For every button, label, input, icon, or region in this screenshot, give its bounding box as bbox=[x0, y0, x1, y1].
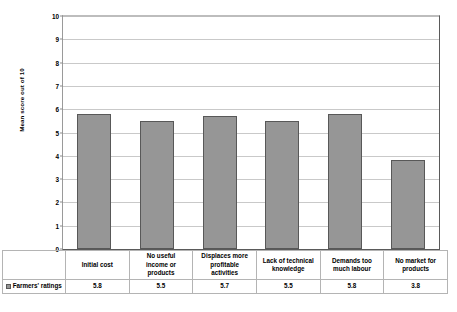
bar-chart-figure: Mean score out of 10 109876543210 Initia… bbox=[0, 0, 457, 312]
bar-slot bbox=[188, 16, 251, 249]
table-row-categories: Initial costNo usefulincome orproductsDi… bbox=[3, 251, 448, 280]
category-label-line: Lack of technical bbox=[257, 257, 320, 265]
bar-slot bbox=[63, 16, 126, 249]
y-tick-label-3: 3 bbox=[55, 176, 59, 183]
category-label-cell: Displaces moreprofitableactivities bbox=[193, 251, 257, 280]
bar-slot bbox=[126, 16, 189, 249]
category-label-line: much labour bbox=[321, 265, 384, 273]
category-label-line: Displaces more bbox=[193, 252, 256, 260]
y-tick-label-9: 9 bbox=[55, 36, 59, 43]
category-label-cell: Initial cost bbox=[66, 251, 130, 280]
y-tick-label-10: 10 bbox=[52, 13, 59, 20]
bar[interactable] bbox=[140, 121, 174, 249]
category-label-line: products bbox=[384, 265, 447, 273]
legend-swatch-icon bbox=[6, 284, 11, 289]
value-cell: 5.5 bbox=[129, 280, 193, 294]
bar-slot bbox=[376, 16, 439, 249]
data-table: Initial costNo usefulincome orproductsDi… bbox=[2, 250, 448, 294]
legend-cell: Farmers' ratings bbox=[3, 280, 66, 294]
y-tick-label-5: 5 bbox=[55, 129, 59, 136]
value-cell: 5.8 bbox=[320, 280, 384, 294]
category-label-cell: No market forproducts bbox=[384, 251, 448, 280]
bars-layer bbox=[63, 16, 439, 249]
category-label-cell: Demands toomuch labour bbox=[320, 251, 384, 280]
category-label-line: No market for bbox=[384, 257, 447, 265]
value-cell: 5.5 bbox=[256, 280, 320, 294]
y-tick-label-7: 7 bbox=[55, 82, 59, 89]
category-label-line: Initial cost bbox=[66, 261, 129, 269]
bar[interactable] bbox=[77, 114, 111, 249]
bar[interactable] bbox=[391, 160, 425, 249]
y-tick-label-8: 8 bbox=[55, 59, 59, 66]
category-label-line: No useful bbox=[130, 252, 193, 260]
value-cell: 5.8 bbox=[66, 280, 130, 294]
y-tick-label-2: 2 bbox=[55, 199, 59, 206]
category-label-line: profitable bbox=[193, 261, 256, 269]
bar-slot bbox=[251, 16, 314, 249]
category-label-line: knowledge bbox=[257, 265, 320, 273]
value-cell: 3.8 bbox=[384, 280, 448, 294]
legend-label: Farmers' ratings bbox=[13, 282, 62, 289]
bar[interactable] bbox=[265, 121, 299, 249]
category-label-line: products bbox=[130, 269, 193, 277]
bar[interactable] bbox=[328, 114, 362, 249]
y-tick-label-4: 4 bbox=[55, 152, 59, 159]
table-row-values: Farmers' ratings 5.85.55.75.55.83.8 bbox=[3, 280, 448, 294]
category-label-cell: Lack of technicalknowledge bbox=[256, 251, 320, 280]
category-label-cell: No usefulincome orproducts bbox=[129, 251, 193, 280]
plot-area: 109876543210 bbox=[62, 15, 440, 250]
category-label-line: income or bbox=[130, 261, 193, 269]
value-cell: 5.7 bbox=[193, 280, 257, 294]
y-tick-label-1: 1 bbox=[55, 222, 59, 229]
y-axis-title: Mean score out of 10 bbox=[18, 40, 26, 160]
y-tick-label-6: 6 bbox=[55, 106, 59, 113]
category-label-line: activities bbox=[193, 269, 256, 277]
table-corner-cell bbox=[3, 251, 66, 280]
category-label-line: Demands too bbox=[321, 257, 384, 265]
bar-slot bbox=[314, 16, 377, 249]
bar[interactable] bbox=[203, 116, 237, 249]
